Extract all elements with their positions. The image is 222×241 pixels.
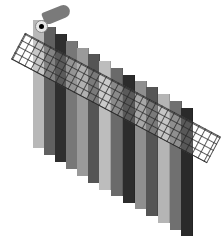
color-swatch-fan <box>0 0 222 241</box>
pin-rivet-icon <box>39 24 44 29</box>
